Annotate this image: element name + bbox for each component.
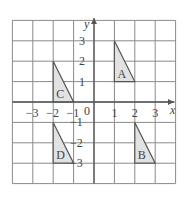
labels: ABCDxy0−3−2−1123321−1−2−3 — [26, 17, 176, 170]
triangle-label-d: D — [56, 148, 65, 162]
x-tick-label: 1 — [111, 106, 117, 120]
y-tick-label: 3 — [79, 34, 85, 48]
y-tick-label: −3 — [70, 156, 83, 170]
x-tick-label: −2 — [46, 106, 59, 120]
x-axis-label: x — [169, 103, 176, 117]
x-tick-label: 2 — [132, 106, 138, 120]
y-axis-arrow-icon — [91, 18, 97, 24]
triangle-label-b: B — [138, 148, 146, 162]
x-tick-label: 3 — [152, 106, 158, 120]
y-tick-label: −2 — [70, 136, 83, 150]
origin-label: 0 — [84, 104, 90, 118]
y-tick-label: 1 — [79, 75, 85, 89]
y-axis-label: y — [83, 17, 90, 31]
coordinate-diagram: ABCDxy0−3−2−1123321−1−2−3 — [0, 0, 184, 205]
triangle-label-c: C — [56, 87, 64, 101]
triangle-label-a: A — [117, 67, 126, 81]
x-tick-label: −3 — [26, 106, 39, 120]
y-tick-label: −1 — [70, 115, 83, 129]
y-tick-label: 2 — [79, 54, 85, 68]
